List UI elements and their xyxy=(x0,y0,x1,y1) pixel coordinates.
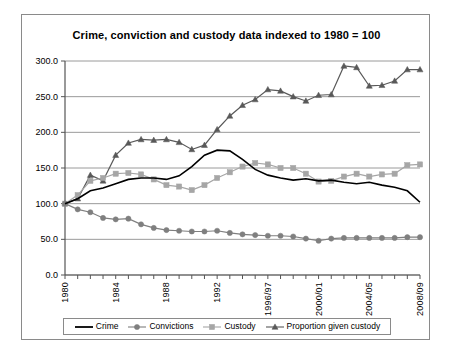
legend-symbol-triangle xyxy=(265,322,285,332)
y-tick-label: 50.0 xyxy=(22,234,58,244)
legend-label: Proportion given custody xyxy=(287,322,381,331)
legend-symbol-square xyxy=(202,322,222,332)
legend-label: Convictions xyxy=(149,322,193,331)
legend-item: Crime xyxy=(74,322,119,332)
y-tick-label: 0.0 xyxy=(22,270,58,280)
legend-symbol-circle xyxy=(127,322,147,332)
legend-item: Proportion given custody xyxy=(265,322,381,332)
legend-symbol-none xyxy=(74,322,94,332)
y-tick-label: 250.0 xyxy=(22,92,58,102)
x-tick-label: 2004/05 xyxy=(364,282,374,316)
y-tick-label: 150.0 xyxy=(22,163,58,173)
y-tick-label: 300.0 xyxy=(22,56,58,66)
x-tick-label: 2008/09 xyxy=(415,282,425,316)
legend-label: Crime xyxy=(96,322,119,331)
legend-item: Convictions xyxy=(127,322,193,332)
x-tick-label: 1992 xyxy=(212,282,222,303)
x-tick-label: 1980 xyxy=(60,282,70,303)
x-tick-label: 1984 xyxy=(111,282,121,303)
x-tick-label: 2000/01 xyxy=(314,282,324,316)
chart-container: Crime, conviction and custody data index… xyxy=(21,14,430,340)
y-tick-label: 200.0 xyxy=(22,127,58,137)
x-tick-label: 1996/97 xyxy=(263,282,273,316)
chart-legend: CrimeConvictionsCustodyProportion given … xyxy=(63,318,391,335)
legend-item: Custody xyxy=(202,322,255,332)
legend-label: Custody xyxy=(224,322,255,331)
y-tick-label: 100.0 xyxy=(22,199,58,209)
plot-area: 0.050.0100.0150.0200.0250.0300.0 1980198… xyxy=(22,15,431,341)
x-tick-label: 1988 xyxy=(161,282,171,303)
